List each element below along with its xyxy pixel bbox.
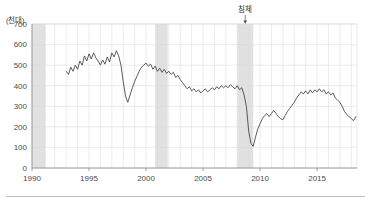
- x-tick-label: 2000: [137, 174, 155, 183]
- y-tick-label: 300: [14, 102, 28, 111]
- chart-figure: (천대) 01002003004005006007001990199520002…: [0, 0, 371, 203]
- plot-background: [32, 24, 357, 168]
- y-tick-label: 0: [23, 164, 28, 173]
- y-tick-label: 600: [14, 40, 28, 49]
- annotation-arrow-head: [243, 21, 247, 24]
- y-tick-label: 100: [14, 143, 28, 152]
- annotation-label: 침체: [238, 4, 252, 14]
- figure-bottom-divider: [6, 196, 365, 197]
- x-tick-label: 2005: [194, 174, 212, 183]
- y-axis-ticks: 0100200300400500600700: [14, 20, 28, 173]
- x-tick-label: 2010: [251, 174, 269, 183]
- band-2001: [155, 24, 168, 168]
- line-chart-plot: 0100200300400500600700199019952000200520…: [0, 0, 371, 203]
- x-tick-label: 2015: [308, 174, 326, 183]
- y-tick-label: 500: [14, 61, 28, 70]
- y-tick-label: 700: [14, 20, 28, 29]
- x-axis-ticks: 199019952000200520102015: [23, 168, 326, 183]
- y-tick-label: 200: [14, 123, 28, 132]
- band-2008: [237, 24, 253, 168]
- y-tick-label: 400: [14, 82, 28, 91]
- x-tick-label: 1995: [80, 174, 98, 183]
- x-tick-label: 1990: [23, 174, 41, 183]
